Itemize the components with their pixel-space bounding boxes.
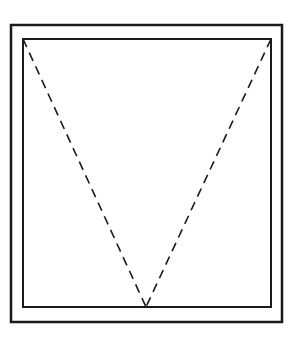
swing-line-right <box>146 39 271 307</box>
swing-line-left <box>23 39 146 307</box>
inner-sash <box>23 39 271 307</box>
window-diagram <box>0 0 299 337</box>
outer-frame <box>11 25 282 322</box>
